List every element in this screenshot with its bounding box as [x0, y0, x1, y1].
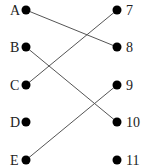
left-label-A: A: [10, 3, 21, 18]
left-dot-D[interactable]: [22, 118, 31, 127]
connection-lines: [26, 10, 117, 160]
right-dot-7[interactable]: [113, 6, 122, 15]
right-label-10: 10: [126, 115, 140, 130]
left-label-B: B: [10, 40, 19, 55]
left-dot-E[interactable]: [22, 156, 31, 165]
right-label-7: 7: [126, 3, 133, 18]
left-label-E: E: [10, 153, 19, 168]
right-label-11: 11: [126, 153, 139, 168]
left-dot-A[interactable]: [22, 6, 31, 15]
right-label-9: 9: [126, 78, 133, 93]
left-column: A B C D E: [10, 3, 31, 168]
right-dot-10[interactable]: [113, 118, 122, 127]
left-dot-C[interactable]: [22, 81, 31, 90]
line-E-9: [26, 85, 117, 160]
right-column: 7 8 9 10 11: [113, 3, 141, 168]
left-label-D: D: [10, 115, 20, 130]
line-C-7: [26, 10, 117, 85]
line-A-8: [26, 10, 117, 47]
matching-diagram: A B C D E 7 8 9 10 11: [0, 0, 141, 168]
right-dot-9[interactable]: [113, 81, 122, 90]
left-label-C: C: [10, 78, 19, 93]
right-dot-8[interactable]: [113, 43, 122, 52]
left-dot-B[interactable]: [22, 43, 31, 52]
right-dot-11[interactable]: [113, 156, 122, 165]
line-B-10: [26, 47, 117, 122]
right-label-8: 8: [126, 40, 133, 55]
